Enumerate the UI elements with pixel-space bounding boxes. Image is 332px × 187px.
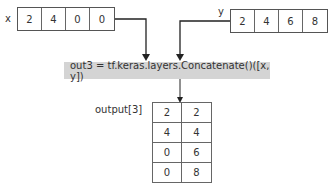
x-array: 2 4 0 0 — [17, 7, 115, 31]
table-cell: 4 — [153, 123, 182, 142]
x-arrow — [114, 19, 146, 58]
operation-text: out3 = tf.keras.layers.Concatenate()([x,… — [70, 60, 270, 82]
table-row: 4 4 — [153, 123, 211, 143]
table-row: 0 8 — [153, 163, 211, 182]
y-cell: 2 — [231, 10, 255, 32]
table-row: 0 6 — [153, 143, 211, 163]
x-cell: 0 — [66, 8, 90, 30]
y-cell: 4 — [255, 10, 279, 32]
x-label: x — [5, 13, 11, 24]
y-arrow — [180, 21, 230, 58]
table-cell: 8 — [182, 163, 211, 182]
output-table: 2 2 4 4 0 6 0 8 — [152, 102, 212, 183]
table-cell: 0 — [153, 163, 182, 182]
y-label: y — [218, 6, 224, 17]
x-cell: 2 — [18, 8, 42, 30]
y-cell: 8 — [303, 10, 327, 32]
x-cell: 0 — [90, 8, 114, 30]
x-cell: 4 — [42, 8, 66, 30]
concatenate-operation: out3 = tf.keras.layers.Concatenate()([x,… — [64, 62, 270, 79]
table-cell: 6 — [182, 143, 211, 162]
y-array: 2 4 6 8 — [230, 9, 328, 33]
table-row: 2 2 — [153, 103, 211, 123]
table-cell: 2 — [153, 103, 182, 122]
table-cell: 0 — [153, 143, 182, 162]
y-cell: 6 — [279, 10, 303, 32]
table-cell: 4 — [182, 123, 211, 142]
output-label: output[3] — [95, 104, 142, 115]
table-cell: 2 — [182, 103, 211, 122]
